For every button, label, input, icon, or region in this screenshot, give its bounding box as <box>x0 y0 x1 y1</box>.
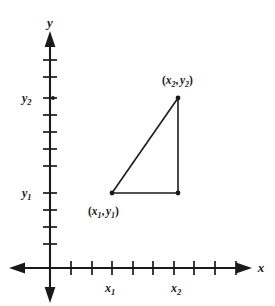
y2-tick-label: y2 <box>20 91 32 107</box>
svg-text:x1: x1 <box>104 281 115 297</box>
right-triangle <box>110 96 181 196</box>
y2-subscript: 2 <box>26 97 32 107</box>
y-axis <box>43 31 57 303</box>
x2-subscript: 2 <box>176 287 182 297</box>
x1-subscript: 1 <box>111 287 115 297</box>
y2-axis-point-marker <box>51 96 55 100</box>
x-axis-name-label: x <box>257 260 265 275</box>
x-axis-arrow-left-icon <box>9 263 25 274</box>
distance-formula-diagram: y x y2 y1 x1 x2 (x2,y2) <box>0 0 275 306</box>
point-label-lower-left: (x1,y1) <box>88 205 119 220</box>
x1-base: x <box>104 281 111 295</box>
vertex-dot-lower-left <box>110 191 115 196</box>
svg-text:(x1,y1): (x1,y1) <box>88 205 119 220</box>
y-axis-name-label: y <box>45 15 53 30</box>
svg-text:y1: y1 <box>20 186 32 202</box>
y1-subscript: 1 <box>27 192 31 202</box>
y-axis-arrow-up-icon <box>45 31 56 47</box>
vertex-dot-upper-right <box>176 96 181 101</box>
x2-tick-label: x2 <box>170 281 182 297</box>
vertex-dot-right-angle <box>176 191 181 196</box>
lower-left-close-paren: ) <box>115 205 119 218</box>
point-label-upper-right: (x2,y2) <box>162 74 193 89</box>
svg-text:y2: y2 <box>20 91 32 107</box>
y1-tick-label: y1 <box>20 186 32 202</box>
x-axis <box>9 261 252 275</box>
triangle-hypotenuse <box>112 98 178 193</box>
x-axis-arrow-right-icon <box>236 263 252 274</box>
svg-text:(x2,y2): (x2,y2) <box>162 74 193 89</box>
y-axis-arrow-down-icon <box>45 287 56 303</box>
upper-right-comma: , <box>176 74 179 86</box>
upper-right-close-paren: ) <box>189 74 193 87</box>
svg-text:x2: x2 <box>170 281 182 297</box>
x2-base: x <box>170 281 177 295</box>
lower-left-comma: , <box>102 205 105 217</box>
x1-tick-label: x1 <box>104 281 115 297</box>
